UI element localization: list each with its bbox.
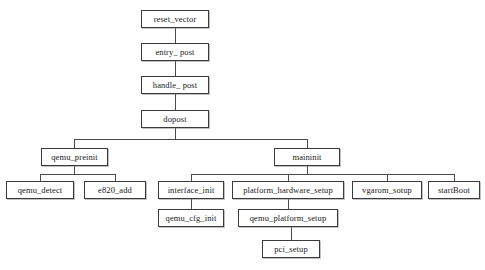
edge-entry-to-handle bbox=[175, 61, 176, 76]
edge-dopost-to-maininit bbox=[307, 139, 308, 148]
node-label: dopost bbox=[163, 115, 186, 124]
node-label: handle_ post bbox=[153, 81, 197, 90]
node-label: qemu_detect bbox=[18, 186, 63, 195]
node-startBoot[interactable]: startBoot bbox=[428, 181, 480, 199]
node-interface_init[interactable]: interface_init bbox=[158, 181, 224, 199]
node-label: qemu_preinit bbox=[51, 153, 98, 162]
edge-preinit-bus bbox=[40, 174, 115, 175]
node-vgarom_sotup[interactable]: vgarom_sotup bbox=[352, 181, 422, 199]
node-label: entry_ post bbox=[155, 48, 194, 57]
node-pci_setup[interactable]: pci_setup bbox=[262, 240, 320, 258]
edge-reset-to-entry bbox=[175, 28, 176, 43]
node-label: e820_add bbox=[98, 186, 132, 195]
node-dopost[interactable]: dopost bbox=[141, 110, 209, 128]
edge-preinit-drop bbox=[74, 166, 75, 174]
node-label: qemu_platform_setup bbox=[250, 214, 327, 223]
edge-handle-to-dopost bbox=[175, 94, 176, 110]
edge-dopost-drop bbox=[175, 128, 176, 139]
node-label: pci_setup bbox=[274, 245, 307, 254]
node-e820_add[interactable]: e820_add bbox=[84, 181, 146, 199]
node-qemu_platform_setup[interactable]: qemu_platform_setup bbox=[238, 209, 338, 227]
node-label: interface_init bbox=[168, 186, 215, 195]
edge-maininit-to-interface bbox=[191, 174, 192, 181]
edge-maininit-to-platform bbox=[288, 174, 289, 181]
edge-maininit-drop bbox=[307, 166, 308, 174]
node-label: platform_hardware_setup bbox=[243, 186, 333, 195]
edge-interface-to-cfginit bbox=[191, 199, 192, 209]
edge-dopost-bus bbox=[74, 139, 307, 140]
node-reset_vector[interactable]: reset_vector bbox=[141, 10, 209, 28]
edge-preinit-to-e820 bbox=[115, 174, 116, 181]
edge-qemuplatform-to-pcisetup bbox=[291, 227, 292, 240]
node-qemu_detect[interactable]: qemu_detect bbox=[6, 181, 74, 199]
node-entry_post[interactable]: entry_ post bbox=[141, 43, 209, 61]
node-label: reset_vector bbox=[154, 15, 197, 24]
node-platform_hardware_setup[interactable]: platform_hardware_setup bbox=[232, 181, 344, 199]
diagram-canvas: reset_vectorentry_ posthandle_ postdopos… bbox=[0, 0, 485, 270]
edge-dopost-to-qemu-preinit bbox=[74, 139, 75, 148]
edge-maininit-to-startboot bbox=[454, 174, 455, 181]
node-qemu_preinit[interactable]: qemu_preinit bbox=[41, 148, 108, 166]
edge-maininit-bus bbox=[191, 174, 454, 175]
edge-platform-to-qemuplatform bbox=[288, 199, 289, 209]
node-maininit[interactable]: maininit bbox=[274, 148, 340, 166]
node-label: vgarom_sotup bbox=[362, 186, 412, 195]
node-label: maininit bbox=[292, 153, 321, 162]
node-label: qemu_cfg_init bbox=[166, 214, 217, 223]
node-handle_post[interactable]: handle_ post bbox=[141, 76, 209, 94]
node-label: startBoot bbox=[438, 186, 470, 195]
edge-preinit-to-detect bbox=[40, 174, 41, 181]
node-qemu_cfg_init[interactable]: qemu_cfg_init bbox=[158, 209, 224, 227]
edge-maininit-to-vgarom bbox=[387, 174, 388, 181]
